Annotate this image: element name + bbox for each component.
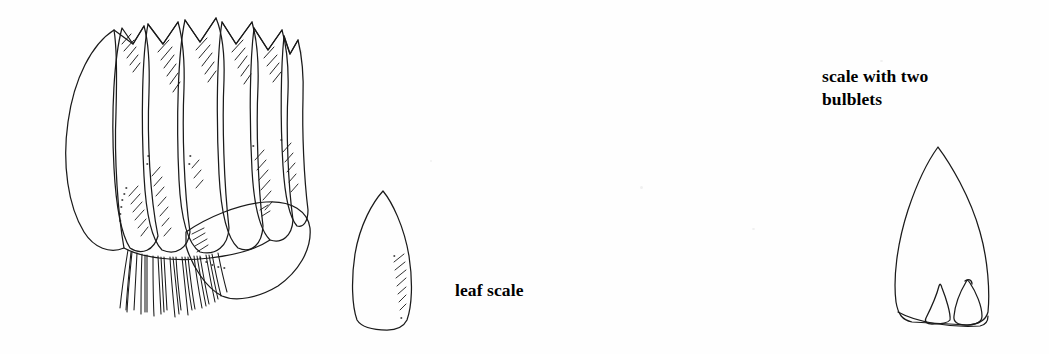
scale-tip-notch [148, 22, 178, 44]
scale-center-right [217, 22, 263, 250]
scale-central [178, 18, 229, 253]
scan-speck [752, 228, 755, 230]
detached-scale-stipple [200, 258, 225, 268]
bulblet-right [954, 280, 982, 325]
scan-speck [430, 160, 432, 162]
scale-stipple [120, 140, 282, 221]
scale-center-left [142, 22, 190, 252]
scale-tip-notch [114, 26, 144, 44]
bulblet-scale-outline [895, 147, 989, 325]
scan-speck [880, 60, 883, 62]
scale-tip-notch [185, 18, 216, 42]
leaf-scale-outline [353, 191, 412, 330]
scale-body-hatching [129, 143, 298, 236]
leaf-scale-hatching [394, 254, 406, 310]
illustration-page: leaf scale scale with twobulblets [0, 0, 1049, 354]
detached-outer-scale [186, 202, 310, 299]
botanical-illustration [0, 0, 1049, 354]
outer-scale-left [66, 30, 124, 250]
scale-tip-notch [284, 36, 298, 54]
scan-speck [300, 50, 303, 53]
bulb-basal-plate [124, 240, 270, 260]
detached-scale-hatching [192, 205, 270, 252]
label-line-1: scale with two [822, 66, 928, 86]
label-scale-with-two-bulblets: scale with twobulblets [822, 65, 928, 111]
leaf-scale-figure [353, 191, 412, 330]
bulb-cluster-figure [66, 18, 310, 317]
bulblet-scale-base [898, 312, 988, 326]
label-leaf-scale: leaf scale [455, 279, 524, 302]
bulblet-left [925, 284, 950, 324]
label-line-2: bulblets [822, 89, 882, 109]
scale-with-bulblets-figure [895, 147, 989, 326]
leaf-scale-stipple [394, 256, 402, 318]
bulblet-right-apex-hook [965, 280, 972, 284]
scale-outer-right [281, 36, 308, 226]
root-fibers [120, 250, 227, 317]
scale-right [250, 28, 293, 241]
scale-tip-notch [254, 28, 282, 50]
scale-left-inner [113, 26, 158, 252]
scale-tip-hatching [122, 34, 281, 92]
scale-tip-notch [222, 22, 252, 44]
scan-speck [640, 186, 643, 189]
